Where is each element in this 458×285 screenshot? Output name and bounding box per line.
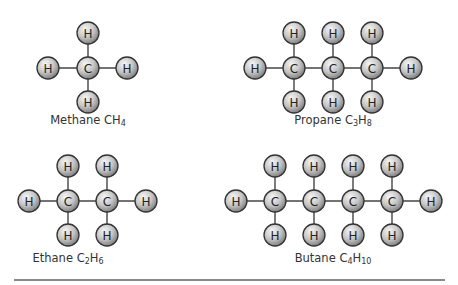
atom-h: H [283, 22, 305, 44]
atom-h: H [244, 57, 266, 79]
atom-h: H [96, 155, 118, 177]
formula-part-2: H [90, 251, 99, 265]
atom-c: C [303, 190, 325, 212]
atom-h: H [361, 91, 383, 113]
svg-text:H: H [387, 229, 396, 243]
svg-text:C: C [310, 195, 318, 209]
atom-c: C [342, 190, 364, 212]
svg-text:C: C [388, 195, 396, 209]
formula-subscript-2: 8 [367, 119, 372, 128]
atom-h: H [225, 190, 247, 212]
atom-h: H [322, 22, 344, 44]
svg-text:H: H [406, 62, 415, 76]
atom-h: H [420, 190, 442, 212]
svg-text:H: H [367, 27, 376, 41]
svg-text:H: H [309, 229, 318, 243]
atom-h: H [57, 155, 79, 177]
svg-text:C: C [271, 195, 279, 209]
atom-h: H [342, 155, 364, 177]
atom-c: C [77, 57, 99, 79]
caption-butane: Butane C4H10 [295, 251, 372, 266]
svg-text:H: H [102, 229, 111, 243]
svg-text:H: H [270, 229, 279, 243]
atom-h: H [283, 91, 305, 113]
svg-text:H: H [289, 96, 298, 110]
atom-h: H [135, 190, 157, 212]
caption-propane: Propane C3H8 [294, 113, 372, 128]
atom-h: H [322, 91, 344, 113]
atom-c: C [322, 57, 344, 79]
atom-c: C [361, 57, 383, 79]
atom-h: H [381, 155, 403, 177]
svg-text:C: C [103, 195, 111, 209]
formula-part-1: CH [104, 113, 121, 127]
molecule-name: Propane [294, 113, 345, 127]
atom-h: H [264, 224, 286, 246]
svg-text:H: H [63, 160, 72, 174]
caption-ethane: Ethane C2H6 [32, 251, 103, 266]
molecule-diagram: CHHHHHCCCHHHHHHHHCCHHHHHHCCCCHHHHHHHHH [0, 0, 458, 285]
atom-h: H [57, 224, 79, 246]
atom-h: H [381, 224, 403, 246]
atom-h: H [400, 57, 422, 79]
svg-text:H: H [250, 62, 259, 76]
svg-text:H: H [83, 96, 92, 110]
svg-text:H: H [102, 160, 111, 174]
svg-text:H: H [328, 96, 337, 110]
svg-text:H: H [348, 229, 357, 243]
molecule-name: Butane [295, 251, 340, 265]
svg-text:H: H [348, 160, 357, 174]
atom-h: H [303, 224, 325, 246]
svg-text:H: H [426, 195, 435, 209]
svg-text:C: C [349, 195, 357, 209]
caption-methane: Methane CH4 [50, 113, 126, 128]
svg-text:H: H [43, 62, 52, 76]
atom-h: H [96, 224, 118, 246]
svg-text:H: H [231, 195, 240, 209]
svg-text:H: H [387, 160, 396, 174]
formula-subscript-2: 10 [361, 257, 371, 266]
formula-part-1: C [345, 113, 353, 127]
atom-h: H [77, 91, 99, 113]
svg-text:H: H [63, 229, 72, 243]
atom-h: H [18, 190, 40, 212]
svg-text:H: H [270, 160, 279, 174]
atom-h: H [361, 22, 383, 44]
atom-h: H [77, 22, 99, 44]
atom-c: C [96, 190, 118, 212]
atom-c: C [381, 190, 403, 212]
svg-text:H: H [309, 160, 318, 174]
svg-text:C: C [290, 62, 298, 76]
formula-subscript-1: 4 [121, 119, 126, 128]
svg-text:H: H [122, 62, 131, 76]
atom-c: C [283, 57, 305, 79]
formula-part-2: H [353, 251, 362, 265]
atom-h: H [303, 155, 325, 177]
svg-text:H: H [83, 27, 92, 41]
formula-subscript-2: 6 [98, 257, 103, 266]
molecule-name: Ethane [32, 251, 76, 265]
horizontal-rule [14, 279, 445, 281]
svg-text:C: C [368, 62, 376, 76]
formula-part-1: C [77, 251, 85, 265]
svg-text:H: H [289, 27, 298, 41]
svg-text:C: C [64, 195, 72, 209]
atoms-layer: CHHHHHCCCHHHHHHHHCCHHHHHHCCCCHHHHHHHHH [18, 22, 442, 246]
atom-h: H [342, 224, 364, 246]
formula-part-1: C [339, 251, 347, 265]
atom-c: C [57, 190, 79, 212]
svg-text:H: H [24, 195, 33, 209]
molecule-name: Methane [50, 113, 104, 127]
svg-text:H: H [141, 195, 150, 209]
atom-c: C [264, 190, 286, 212]
atom-h: H [264, 155, 286, 177]
svg-text:H: H [328, 27, 337, 41]
atom-h: H [37, 57, 59, 79]
svg-text:H: H [367, 96, 376, 110]
svg-text:C: C [84, 62, 92, 76]
atom-h: H [116, 57, 138, 79]
svg-text:C: C [329, 62, 337, 76]
